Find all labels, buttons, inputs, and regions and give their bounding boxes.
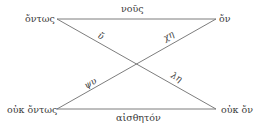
- node-top-left: ὄντως: [25, 13, 55, 24]
- square-diagram: ὄντως ὄν οὐκ ὄντως οὐκ ὄν νοῦς αἰσθητόν …: [0, 0, 260, 125]
- edge-label-bottom: αἰσθητόν: [116, 112, 161, 123]
- edge-label-top: νοῦς: [121, 3, 144, 14]
- node-top-right: ὄν: [219, 13, 231, 24]
- node-bottom-left: οὐκ ὄντως: [7, 104, 57, 115]
- node-bottom-right: οὐκ ὄν: [221, 104, 253, 115]
